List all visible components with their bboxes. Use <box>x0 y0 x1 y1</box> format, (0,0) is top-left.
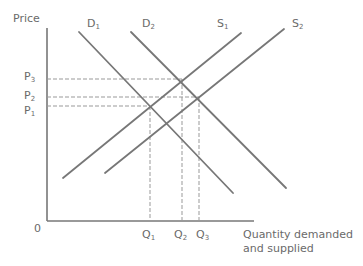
p3-label: P3 <box>24 70 35 87</box>
p1-label: P1 <box>24 104 35 121</box>
d2-label: D2 <box>142 17 155 34</box>
q3-label: Q3 <box>196 228 209 245</box>
d1-label: D1 <box>87 17 100 34</box>
q2-label: Q2 <box>174 228 187 245</box>
y-axis-label: Price <box>13 12 40 25</box>
origin-label: 0 <box>34 222 41 235</box>
s1-label: S1 <box>217 17 228 34</box>
q1-label: Q1 <box>142 228 155 245</box>
x-axis-label: Quantity demanded and supplied <box>243 228 353 256</box>
supply-curve-s2 <box>105 29 284 173</box>
supply-demand-chart <box>0 0 363 266</box>
s2-label: S2 <box>292 17 303 34</box>
